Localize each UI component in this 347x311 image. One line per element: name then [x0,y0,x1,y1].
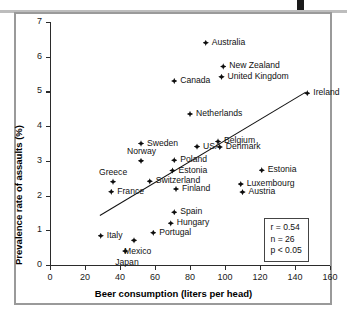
x-axis-tick [330,266,331,270]
data-point-label: Netherlands [196,108,242,118]
y-axis-line [50,22,51,265]
data-point-label: Portugal [159,227,191,237]
data-point-marker [171,157,177,163]
y-axis-tick-label: 4 [18,120,42,130]
y-axis-tick [46,196,50,197]
data-point-label: Denmark [226,141,261,151]
data-point-marker [194,143,200,149]
y-axis-tick-label: 0 [18,259,42,269]
data-point-label: Italy [107,230,123,240]
x-axis-tick-label: 0 [36,272,64,282]
data-point-label: New Zealand [229,60,280,70]
statistics-annotation-box: r = 0.54 n = 26 p < 0.05 [264,218,309,262]
data-point-marker [150,230,156,236]
data-point-label: Spain [180,206,202,216]
data-point-label: Finland [182,183,210,193]
y-axis-tick-label: 2 [18,190,42,200]
data-point-label: Japan [115,257,138,267]
stat-r: r = 0.54 [271,222,302,234]
y-axis-tick [46,230,50,231]
y-axis-tick-label: 3 [18,155,42,165]
y-axis-tick [46,126,50,127]
data-point-marker [218,74,224,80]
scatter-plot: Prevalence rate of assaults (%) Beer con… [0,0,347,311]
data-point-marker [131,237,137,243]
chart-page: Prevalence rate of assaults (%) Beer con… [0,0,347,311]
x-axis-tick-label: 80 [176,272,204,282]
data-point-marker [238,181,244,187]
y-axis-tick [46,57,50,58]
data-point-label: Greece [99,167,127,177]
x-axis-tick [155,266,156,270]
x-axis-tick-label: 60 [141,272,169,282]
x-axis-tick [190,266,191,270]
data-point-marker [239,189,245,195]
data-point-marker [110,178,116,184]
data-point-marker [171,209,177,215]
x-axis-title: Beer consumption (liters per head) [0,288,347,299]
data-point-marker [173,186,179,192]
x-axis-tick-label: 160 [316,272,344,282]
data-point-label: Canada [180,75,210,85]
data-point-label: Mexico [124,246,151,256]
data-point-marker [108,189,114,195]
y-axis-tick-label: 7 [18,16,42,26]
y-axis-tick [46,161,50,162]
y-axis-tick-label: 6 [18,51,42,61]
data-point-label: Estonia [268,164,297,174]
x-axis-tick [225,266,226,270]
stat-p: p < 0.05 [271,245,302,257]
data-point-marker [168,220,174,226]
data-point-marker [138,158,144,164]
data-point-marker [98,233,104,239]
data-point-marker [171,78,177,84]
y-axis-tick [46,91,50,92]
x-axis-tick-label: 100 [211,272,239,282]
y-axis-tick [46,22,50,23]
data-point-marker [259,167,265,173]
stat-n: n = 26 [271,234,302,246]
x-axis-tick-label: 140 [281,272,309,282]
x-axis-tick-label: 40 [106,272,134,282]
y-axis-tick-label: 1 [18,224,42,234]
data-point-label: Australia [212,37,245,47]
y-axis-tick-label: 5 [18,85,42,95]
x-axis-tick-label: 120 [246,272,274,282]
data-point-label: United Kingdom [228,71,289,81]
data-point-marker [203,40,209,46]
x-axis-tick [85,266,86,270]
data-point-label: Ireland [313,87,339,97]
x-axis-tick [260,266,261,270]
data-point-marker [187,111,193,117]
x-axis-tick [50,266,51,270]
data-point-label: Norway [127,146,156,156]
x-axis-tick [295,266,296,270]
data-point-marker [220,63,226,69]
x-axis-tick-label: 20 [71,272,99,282]
data-point-label: Austria [249,186,276,196]
